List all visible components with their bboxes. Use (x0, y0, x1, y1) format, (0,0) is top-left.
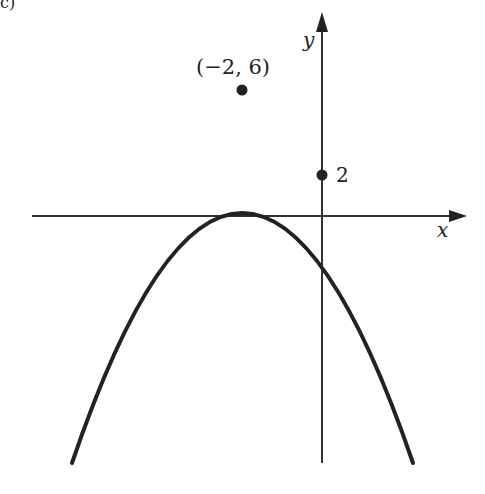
y-axis-label: y (302, 28, 315, 52)
y-intercept-label: 2 (336, 163, 349, 187)
corner-mark: c) (0, 0, 15, 12)
y-axis-arrow-icon (316, 12, 328, 32)
y-intercept-point (317, 170, 328, 181)
x-axis-label: x (437, 218, 448, 242)
parabola-curve (72, 213, 413, 463)
vertex-point (237, 85, 248, 96)
parabola-graph: c) x y (−2, 6) 2 (0, 0, 485, 494)
x-axis-arrow-icon (449, 210, 467, 222)
vertex-label: (−2, 6) (196, 55, 270, 79)
